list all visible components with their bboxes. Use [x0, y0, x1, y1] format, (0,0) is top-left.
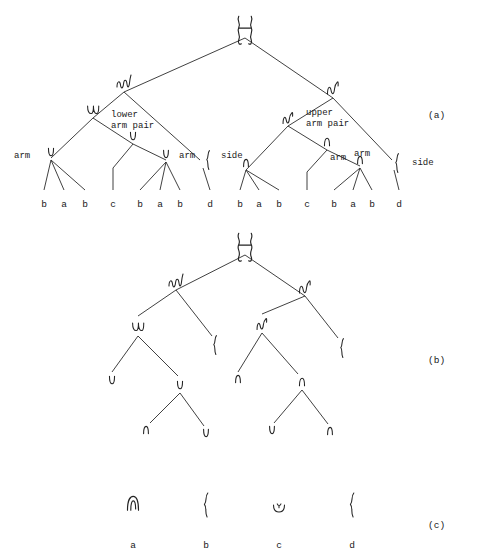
panel-a-leaf-4: b	[137, 199, 143, 210]
panel-a-edge-8	[44, 160, 51, 190]
panel-b-edge-12	[274, 390, 302, 423]
panel-a-left-lowerarmpair-double-u-icon	[86, 105, 100, 115]
panel-a-right-armnode-single-n-icon	[323, 137, 332, 146]
panel-c-undefined-brace-icon	[347, 492, 358, 518]
panel-a-leaf-6: b	[177, 199, 183, 210]
panel-a-edge-12	[140, 162, 166, 190]
panel-tag-b: (b)	[428, 355, 445, 366]
panel-b-left-child-triple-wave-icon	[167, 273, 185, 289]
panel-a-left-arm-inner-single-u-icon	[162, 150, 170, 159]
panel-a-annotation-lower-arm-pair: lower arm pair	[111, 110, 154, 132]
panel-b-edge-11	[262, 333, 298, 374]
panel-a-leaf-3: c	[110, 199, 116, 210]
panel-b-edge-3	[176, 290, 212, 336]
panel-b-edge-6	[112, 336, 138, 372]
panel-tag-c: (c)	[428, 520, 445, 531]
panel-b-root-double-loop-icon	[234, 231, 257, 264]
panel-a-edge-15	[203, 168, 210, 190]
panel-a-left-child-triple-wave-icon	[115, 74, 133, 90]
panel-a-edge-23	[246, 170, 259, 190]
panel-a-annotation-upper-arm-pair: upper arm pair	[306, 108, 349, 130]
panel-a-annotation-arm-right-outer: arm	[354, 149, 370, 160]
panel-a-edge-22	[240, 170, 246, 190]
panel-a-annotation-arm-right-inner: arm	[330, 153, 346, 164]
panel-b-rlrr-single-n-icon	[326, 427, 334, 436]
panel-a-edge-6	[113, 144, 133, 168]
panel-b-edge-9	[180, 393, 204, 426]
panel-a-edge-9	[51, 160, 64, 190]
panel-a-leaf-8: b	[237, 199, 243, 210]
figure-canvas: armlower arm pairarmsideupper arm pairar…	[0, 0, 482, 556]
panel-a-right-arm-outer-single-n-icon	[242, 159, 250, 168]
panel-c-symbol-label-b: b	[203, 540, 209, 551]
panel-c-undefined-brace-icon	[201, 492, 212, 518]
panel-a-leaf-1: a	[61, 199, 67, 210]
panel-a-edge-26	[334, 168, 360, 190]
panel-c-symbol-label-c: c	[276, 540, 282, 551]
panel-a-annotation-side-right: side	[412, 158, 434, 169]
panel-a-edge-27	[353, 168, 360, 190]
panel-b-llr-single-u-icon	[176, 380, 185, 389]
panel-b-edge-10	[238, 333, 262, 372]
panel-a-edge-29	[394, 170, 399, 190]
panel-a-edge-7	[133, 144, 166, 160]
panel-b-llrl-single-n-icon	[142, 426, 150, 435]
panel-a-right-upperarmpair-double-wave-icon	[281, 111, 295, 125]
panel-a-edge-28	[360, 168, 372, 190]
panel-b-llrr-single-u-icon	[202, 429, 210, 438]
panel-b-rr-brace-brace-icon	[338, 338, 347, 359]
panel-a-left-armnode-single-u-icon	[129, 131, 138, 140]
panel-a-edge-10	[51, 160, 85, 190]
panel-a-right-side-brace-brace-icon	[393, 153, 402, 174]
panel-b-edge-0	[176, 255, 245, 290]
panel-b-rl-double-wave-icon	[255, 317, 269, 331]
panel-c-undefined-arch-n-icon	[125, 495, 140, 512]
panel-b-edge-5	[305, 296, 338, 338]
panel-c-undefined-cup-dot-icon	[272, 502, 286, 513]
panel-a-leaf-5: a	[157, 199, 163, 210]
panel-a-leaf-14: b	[369, 199, 375, 210]
panel-b-lll-single-u-icon	[108, 375, 117, 384]
panel-a-edge-24	[246, 170, 279, 190]
panel-c-symbol-label-a: a	[130, 540, 136, 551]
panel-c-symbol-label-d: d	[349, 540, 355, 551]
panel-a-right-child-double-wave-icon	[326, 80, 341, 96]
panel-a-edge-14	[166, 162, 180, 190]
panel-a-edge-0	[124, 38, 245, 92]
panel-b-rll-single-n-icon	[234, 375, 242, 384]
panel-a-leaf-10: b	[276, 199, 282, 210]
tree-edges-layer	[0, 0, 482, 556]
panel-a-leaf-7: d	[207, 199, 213, 210]
panel-a-leaf-9: a	[256, 199, 262, 210]
panel-a-leaf-2: b	[82, 199, 88, 210]
panel-b-edge-7	[138, 336, 178, 376]
panel-b-edge-4	[262, 296, 305, 314]
panel-a-annotation-arm-left-inner: arm	[179, 151, 195, 162]
panel-a-annotation-arm-left-outer: arm	[14, 151, 30, 162]
panel-b-edge-1	[245, 255, 305, 296]
panel-a-left-arm-outer-single-u-icon	[47, 147, 56, 156]
panel-a-edge-4	[51, 118, 93, 158]
panel-b-ll-double-u-icon	[131, 322, 145, 332]
panel-b-rlrl-single-u-icon	[268, 426, 276, 435]
panel-b-edge-13	[302, 390, 328, 424]
panel-a-edge-13	[160, 162, 166, 190]
panel-a-leaf-13: a	[350, 199, 356, 210]
panel-b-lr-brace-brace-icon	[211, 335, 220, 356]
panel-b-edge-2	[138, 290, 176, 316]
panel-a-leaf-0: b	[41, 199, 47, 210]
panel-b-edge-8	[150, 393, 180, 423]
panel-a-leaf-11: c	[304, 199, 310, 210]
panel-a-leaf-12: b	[331, 199, 337, 210]
panel-a-left-side-brace-brace-icon	[204, 150, 213, 171]
panel-a-edge-20	[307, 150, 327, 172]
panel-b-right-child-double-wave-icon	[298, 279, 313, 295]
panel-a-annotation-side-left: side	[221, 151, 243, 162]
panel-b-rlr-single-n-icon	[298, 377, 307, 386]
panel-a-edge-18	[246, 126, 288, 170]
panel-tag-a: (a)	[428, 110, 445, 121]
panel-a-leaf-15: d	[396, 199, 402, 210]
panel-a-root-double-loop-icon	[234, 14, 257, 47]
panel-a-edge-1	[245, 38, 333, 98]
